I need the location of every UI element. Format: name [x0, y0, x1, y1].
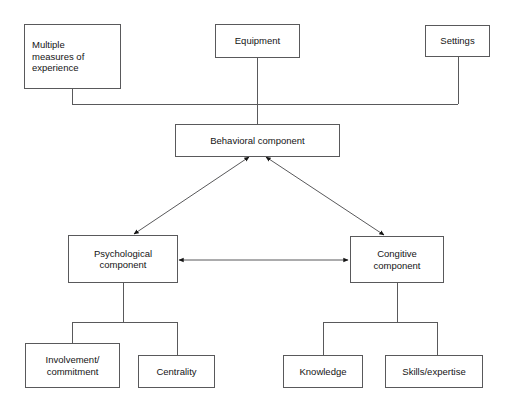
- node-centrality[interactable]: Centrality: [138, 355, 215, 388]
- node-knowledge[interactable]: Knowledge: [283, 355, 363, 388]
- node-psychological-component[interactable]: Psychological component: [68, 235, 178, 283]
- node-involvement-commitment[interactable]: Involvement/ commitment: [25, 343, 120, 388]
- node-behavioral-component[interactable]: Behavioral component: [175, 124, 340, 157]
- node-settings[interactable]: Settings: [425, 25, 490, 57]
- node-equipment-label: Equipment: [216, 35, 299, 47]
- node-multiple-measures-label: Multiple measures of experience: [25, 39, 120, 74]
- node-equipment[interactable]: Equipment: [215, 24, 300, 58]
- diagram-canvas: Multiple measures of experience Equipmen…: [0, 0, 512, 409]
- node-behavioral-component-label: Behavioral component: [176, 135, 339, 147]
- node-skills-expertise-label: Skills/expertise: [386, 366, 482, 378]
- arrow-behavioral-congitive: [266, 157, 384, 235]
- node-multiple-measures[interactable]: Multiple measures of experience: [24, 24, 121, 89]
- node-involvement-commitment-label: Involvement/ commitment: [26, 354, 119, 377]
- node-centrality-label: Centrality: [139, 366, 214, 378]
- node-congitive-component-label: Congitive component: [351, 248, 443, 271]
- node-settings-label: Settings: [426, 35, 489, 47]
- node-congitive-component[interactable]: Congitive component: [350, 236, 444, 283]
- node-skills-expertise[interactable]: Skills/expertise: [385, 355, 483, 388]
- node-knowledge-label: Knowledge: [284, 366, 362, 378]
- node-psychological-component-label: Psychological component: [69, 248, 177, 271]
- arrow-behavioral-psychological: [134, 157, 249, 234]
